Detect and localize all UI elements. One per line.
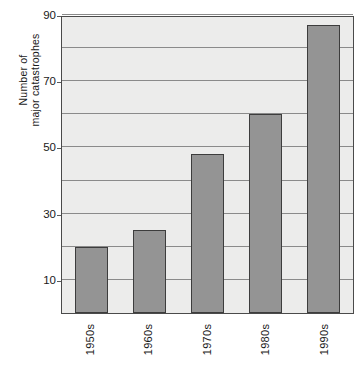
y-axis-tick-label: 90 (34, 10, 56, 22)
y-axis-tick-label: 30 (34, 209, 56, 221)
gridline (62, 14, 353, 15)
bar (307, 25, 340, 313)
y-axis-tick-label: 50 (34, 143, 56, 155)
plot-area (61, 16, 354, 314)
x-axis-tick-label-slot: 1960s (132, 314, 165, 345)
x-axis-tick-label: 1960s (143, 324, 154, 355)
x-axis-tick-labels: 1950s1960s1970s1980s1990s (61, 314, 354, 368)
x-axis-tick-label-slot: 1990s (308, 314, 341, 345)
y-axis-tick-label: 10 (34, 275, 56, 287)
x-axis-tick-label: 1990s (319, 324, 330, 355)
y-axis-tick-label: 70 (34, 76, 56, 88)
x-axis-tick-label-slot: 1970s (191, 314, 224, 345)
bar (249, 114, 282, 313)
bar (75, 247, 108, 313)
x-axis-tick-label: 1970s (202, 324, 213, 355)
bar (133, 230, 166, 313)
x-axis-tick-label: 1980s (261, 324, 272, 355)
bars-layer (62, 17, 353, 313)
x-axis-tick-label-slot: 1950s (74, 314, 107, 345)
y-axis-tick-labels: 1030507090 (34, 0, 56, 368)
bar-chart: Number of major catastrophes 1030507090 … (0, 0, 364, 368)
x-axis-tick-label: 1950s (85, 324, 96, 355)
y-axis-title-line-1: Number of (17, 55, 30, 106)
bar (191, 154, 224, 313)
x-axis-tick-label-slot: 1980s (250, 314, 283, 345)
